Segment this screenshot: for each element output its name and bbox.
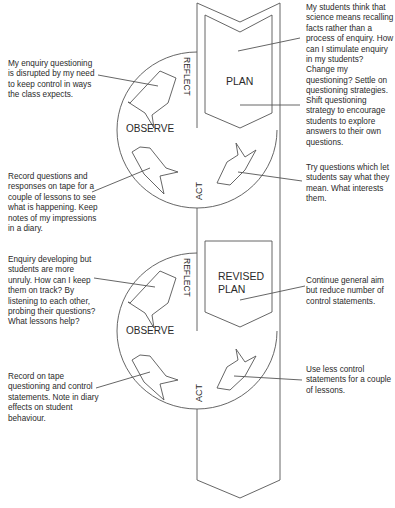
note-act-2: Use less control statements for a couple… — [306, 365, 392, 396]
leader-plan-problem — [238, 38, 300, 51]
observe-label-1: OBSERVE — [126, 123, 174, 134]
act-label-1: ACT — [194, 181, 204, 200]
note-revised-plan: Continue general aim but reduce number o… — [306, 276, 394, 307]
revised-plan-label-line1: REVISED — [218, 270, 265, 282]
leader-reflect-1 — [98, 75, 158, 86]
act-arrow-2 — [217, 349, 256, 390]
reflect-arrow-2 — [128, 271, 176, 328]
note-reflect-2: Enquiry developing but students are more… — [8, 255, 100, 328]
note-act-1: Try questions which let students say wha… — [306, 163, 392, 205]
reflect-arrow-1 — [128, 71, 176, 128]
revised-plan-label-line2: PLAN — [218, 283, 245, 295]
observe-label-2: OBSERVE — [126, 325, 174, 336]
leader-observe-2 — [96, 372, 150, 388]
leader-revised-plan — [240, 286, 305, 300]
act-arrow-1 — [217, 143, 256, 185]
leader-act-1 — [238, 172, 302, 181]
note-observe-2: Record on tape questioning and control s… — [8, 372, 100, 424]
observe-arrow-2 — [132, 355, 178, 400]
note-reflect-1: My enquiry questioning is disrupted by m… — [8, 59, 100, 101]
note-observe-1: Record questions and responses on tape f… — [8, 172, 98, 234]
leader-act-2 — [234, 376, 302, 380]
leader-observe-1 — [92, 168, 150, 192]
note-plan-problem: My students think that science means rec… — [306, 3, 394, 97]
plan-label: PLAN — [226, 75, 253, 87]
cycle-1-circle-right-arc — [197, 130, 277, 208]
observe-arrow-1 — [132, 147, 178, 194]
leader-reflect-2 — [94, 278, 155, 287]
plan-box — [205, 15, 272, 128]
cycle-2-circle-right-arc — [197, 331, 277, 409]
act-label-2: ACT — [194, 383, 204, 402]
note-plan-strategy: Shift questioning strategy to encourage … — [306, 96, 394, 148]
reflect-label-1: REFLECT — [182, 57, 192, 96]
reflect-label-2: REFLECT — [182, 258, 192, 297]
